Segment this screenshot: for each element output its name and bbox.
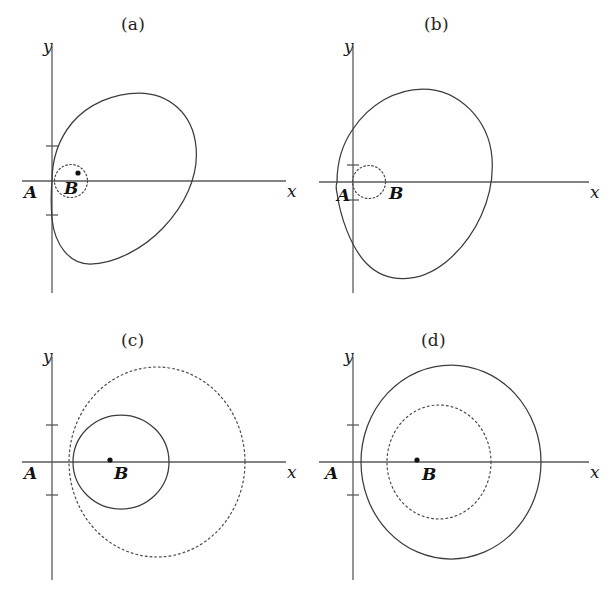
- x-axis-label: x: [287, 462, 297, 482]
- figure-four-panel-limacon-diagram: (a) y x A B (b) y x A B: [0, 0, 606, 590]
- point-label-a: A: [337, 185, 350, 205]
- x-axis-label: x: [590, 462, 600, 482]
- panel-caption-a: (a): [121, 14, 145, 34]
- point-label-a: A: [24, 182, 37, 202]
- point-label-a: A: [24, 463, 37, 483]
- panel-caption-d: (d): [421, 330, 446, 350]
- y-axis-label: y: [43, 36, 53, 56]
- panel-caption-b: (b): [424, 14, 449, 34]
- panel-b: (b) y x A B: [303, 0, 606, 295]
- x-axis-label: x: [287, 181, 297, 201]
- point-b-marker: [107, 457, 112, 462]
- panel-c: (c) y x A B: [0, 295, 303, 590]
- y-axis-label: y: [344, 346, 354, 366]
- panel-a: (a) y x A B: [0, 0, 303, 295]
- y-axis-label: y: [344, 36, 354, 56]
- point-label-b: B: [64, 178, 78, 198]
- point-b-marker: [414, 457, 419, 462]
- panel-caption-c: (c): [121, 330, 144, 350]
- panel-d-plot: [303, 295, 606, 590]
- point-label-b: B: [114, 463, 128, 483]
- point-label-b: B: [422, 464, 436, 484]
- point-b-marker: [75, 170, 80, 175]
- panel-d: (d) y x A B: [303, 295, 606, 590]
- x-axis-label: x: [590, 182, 600, 202]
- point-label-b: B: [389, 183, 403, 203]
- y-axis-label: y: [43, 346, 53, 366]
- limacon-curve-solid: [336, 89, 492, 279]
- point-label-a: A: [325, 463, 338, 483]
- panel-c-plot: [0, 295, 303, 590]
